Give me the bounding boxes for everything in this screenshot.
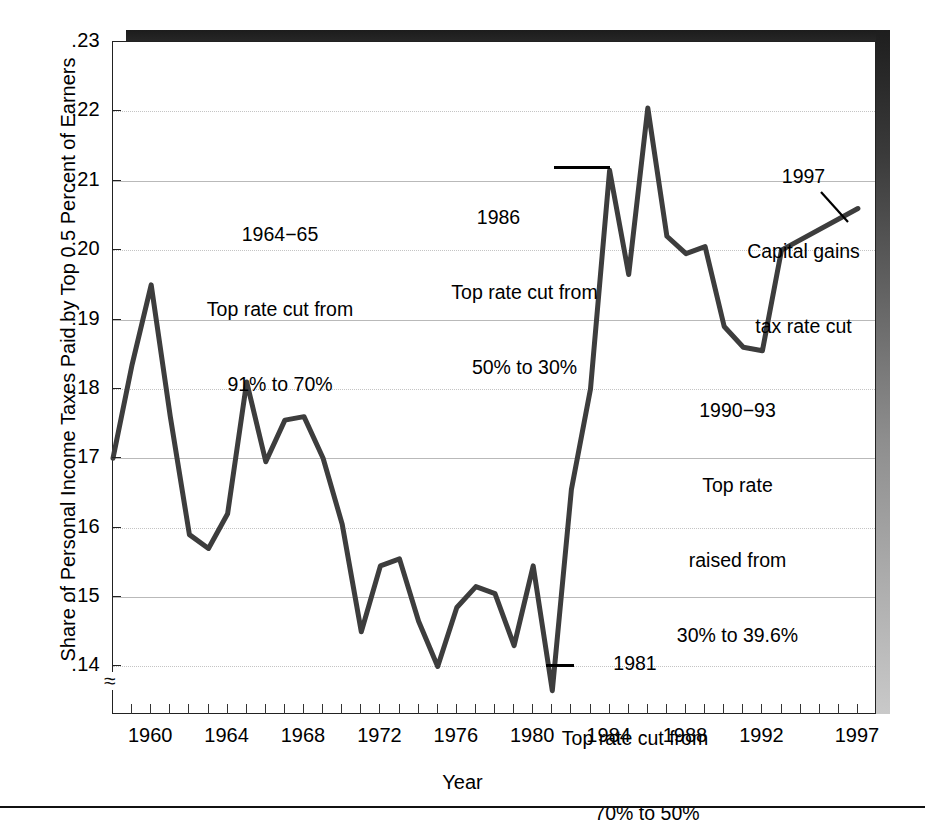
annotation-1981: 1981 Top rate cut from 70% to 50% <box>540 601 730 821</box>
annotation-1981-line3: 70% to 50% <box>552 801 742 821</box>
footer-rule <box>0 806 925 808</box>
annotation-1990-93-line3: raised from <box>640 548 835 573</box>
annotation-1981-line2: Top rate cut from <box>540 726 730 751</box>
annotation-1990-93-line2: Top rate <box>640 473 835 498</box>
figure-root: .14.15.16.17.18.19.20.21.22.23 196019641… <box>0 0 925 821</box>
annotation-1990-93-line1: 1990−93 <box>640 398 835 423</box>
annotation-1981-leader-line <box>546 664 574 667</box>
